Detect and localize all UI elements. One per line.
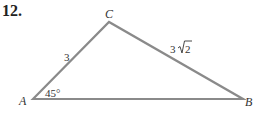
angle-label-a: 45° [45, 87, 60, 99]
side-label-cb: 3 2 [170, 41, 192, 55]
side-label-cb-radicand: 2 [185, 43, 191, 55]
side-label-cb-coefficient: 3 [170, 43, 176, 55]
vertex-label-c: C [105, 7, 114, 21]
vertex-label-a: A [18, 94, 27, 108]
triangle-diagram: C A B 3 3 2 45° [0, 0, 267, 118]
side-label-ac: 3 [64, 51, 70, 63]
vertex-label-b: B [245, 95, 253, 109]
